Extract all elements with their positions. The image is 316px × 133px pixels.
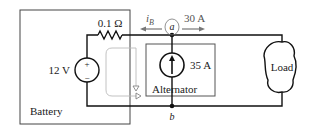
minus-sign: − — [84, 73, 89, 83]
voltage-label: 12 V — [49, 64, 71, 76]
circuit-diagram: + − 0.1 Ω 12 V Battery 35 A Alternator L… — [0, 0, 316, 133]
loop-arrow-right-icon — [136, 93, 141, 99]
loop-arrow-down-icon — [133, 86, 139, 91]
alternator-label: Alternator — [152, 83, 198, 95]
node-a-label: a — [170, 21, 175, 32]
wires — [87, 35, 282, 106]
resistor-icon — [98, 31, 122, 39]
arrow-right-icon — [199, 27, 205, 32]
resistor-label: 0.1 Ω — [98, 17, 123, 29]
plus-sign: + — [84, 59, 89, 69]
alternator-current-label: 35 A — [190, 59, 211, 71]
load-label: Load — [271, 61, 294, 73]
battery-label: Battery — [30, 105, 63, 117]
arrow-left-icon — [140, 27, 146, 32]
battery-current-label: iB — [146, 12, 154, 27]
load-current-label: 30 A — [184, 12, 205, 24]
node-b-dot — [170, 104, 175, 109]
node-b-label: b — [170, 111, 175, 122]
loop-path — [106, 48, 138, 96]
